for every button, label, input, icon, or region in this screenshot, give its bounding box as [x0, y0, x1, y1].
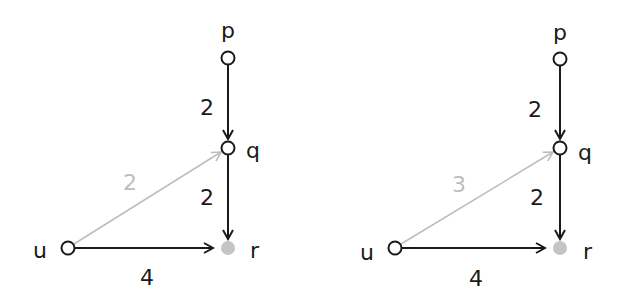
label-p: p [221, 18, 235, 43]
weight-p-q: 2 [200, 95, 214, 120]
weight-q-r: 2 [530, 185, 544, 210]
weight-u-r: 4 [469, 266, 483, 291]
node-q [554, 142, 567, 155]
graph-right: 2 2 3 4 p q r u [360, 20, 593, 291]
label-p: p [553, 20, 567, 45]
node-r [553, 241, 567, 255]
weight-u-q: 2 [123, 170, 137, 195]
weight-q-r: 2 [200, 185, 214, 210]
node-p [554, 53, 567, 66]
label-u: u [360, 240, 374, 265]
node-p [222, 52, 235, 65]
label-u: u [33, 238, 47, 263]
weight-p-q: 2 [528, 97, 542, 122]
label-q: q [246, 138, 260, 163]
node-q [222, 142, 235, 155]
label-r: r [583, 239, 593, 264]
diagram-canvas: 2 2 2 4 p q r u 2 2 3 4 p q r u [0, 0, 629, 302]
node-u [389, 242, 402, 255]
weight-u-r: 4 [140, 265, 154, 290]
graph-left: 2 2 2 4 p q r u [33, 18, 260, 290]
weight-u-q: 3 [452, 172, 466, 197]
node-u [62, 242, 75, 255]
edge-u-q [74, 152, 221, 244]
label-r: r [250, 238, 260, 263]
label-q: q [578, 140, 592, 165]
node-r [221, 241, 235, 255]
